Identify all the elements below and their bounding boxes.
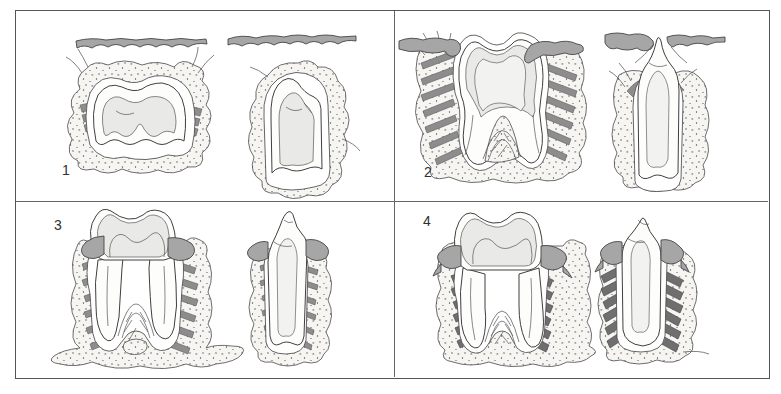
- panel-stage-3: 3: [16, 201, 394, 377]
- gingiva-band: [76, 35, 356, 48]
- premolar-tooth: [633, 37, 683, 191]
- stage-2-illustration: [395, 11, 769, 201]
- panel-4-label: 4: [423, 214, 431, 228]
- panel-3-label: 3: [54, 218, 62, 232]
- figure-frame: 1: [15, 10, 770, 379]
- panel-stage-2: 2: [394, 11, 768, 201]
- panel-1-label: 1: [62, 163, 70, 177]
- molar-tooth-germ: [86, 76, 195, 160]
- premolar-tooth: [264, 212, 308, 354]
- panel-2-label: 2: [424, 165, 432, 179]
- panel-stage-1: 1: [16, 11, 394, 201]
- stage-4-illustration: [395, 202, 769, 378]
- panel-stage-4: 4: [394, 201, 768, 377]
- stage-3-illustration: [16, 202, 394, 378]
- premolar-tooth-germ: [264, 72, 330, 190]
- stage-1-illustration: [16, 11, 394, 201]
- premolar-tooth: [616, 218, 667, 352]
- figure-canvas: 1: [0, 0, 781, 394]
